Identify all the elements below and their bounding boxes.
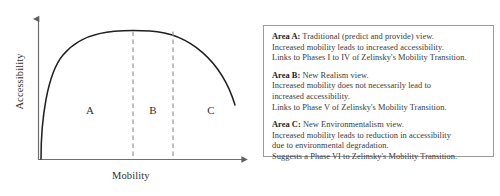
note-area-a: Area A: Traditional (predict and provide… <box>272 32 486 64</box>
legend-notes-box: Area A: Traditional (predict and provide… <box>263 25 494 157</box>
note-area-a-line3: Links to Phases I to IV of Zelinsky's Mo… <box>272 53 486 64</box>
region-label-c: C <box>203 104 219 116</box>
note-area-a-heading-rest: Traditional (predict and provide) view. <box>300 32 434 41</box>
note-area-c-heading: Area C: <box>272 120 301 129</box>
note-area-c-line3: due to environmental degradation. <box>272 141 486 152</box>
note-area-b-heading-rest: New Realism view. <box>300 71 368 80</box>
region-label-b: B <box>145 104 161 116</box>
note-area-c-line2: Increased mobility leads to reduction in… <box>272 131 486 142</box>
note-area-b: Area B: New Realism view. Increased mobi… <box>272 71 486 113</box>
note-area-c-line1: Area C: New Environmentalism view. <box>272 120 486 131</box>
y-axis-title: Accessibility <box>14 42 25 122</box>
note-area-b-line3: increased accessibility. <box>272 92 486 103</box>
note-area-a-line1: Area A: Traditional (predict and provide… <box>272 32 486 43</box>
chart-plot-area <box>0 0 262 196</box>
note-area-c: Area C: New Environmentalism view. Incre… <box>272 120 486 162</box>
note-area-c-heading-rest: New Environmentalism view. <box>301 120 404 129</box>
x-axis-title: Mobility <box>112 170 150 181</box>
note-area-c-line4: Suggests a Phase VI to Zelinsky's Mobili… <box>272 152 486 163</box>
note-area-b-heading: Area B: <box>272 71 300 80</box>
note-area-a-heading: Area A: <box>272 32 300 41</box>
accessibility-curve <box>41 30 235 159</box>
note-area-b-line1: Area B: New Realism view. <box>272 71 486 82</box>
note-area-a-line2: Increased mobility leads to increased ac… <box>272 43 486 54</box>
note-area-b-line4: Links to Phase V of Zelinsky's Mobility … <box>272 103 486 114</box>
region-label-a: A <box>82 104 98 116</box>
note-area-b-line2: Increased mobility does not necessarily … <box>272 81 486 92</box>
accessibility-mobility-chart: Accessibility Mobility A B C <box>0 0 262 196</box>
